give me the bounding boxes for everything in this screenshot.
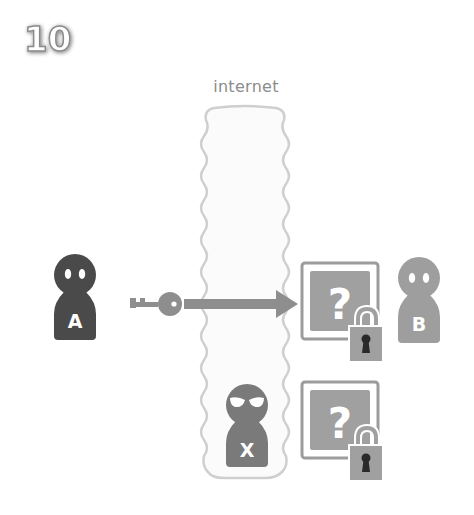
- person-a: A: [50, 252, 100, 342]
- person-a-label: A: [50, 310, 100, 332]
- internet-label: internet: [196, 77, 296, 96]
- locked-message-box-attacker: ?: [300, 380, 384, 482]
- step-number-graphic: 10: [22, 18, 82, 58]
- key-icon: [130, 292, 182, 316]
- step-number: 10: [22, 18, 82, 58]
- question-mark-icon: ?: [328, 399, 352, 448]
- person-b-label: B: [394, 313, 444, 335]
- arrow-icon: [184, 290, 298, 318]
- svg-text:10: 10: [24, 19, 71, 58]
- key-transfer-arrow: [128, 284, 300, 324]
- person-b: B: [394, 255, 444, 345]
- locked-message-box-receiver: ?: [300, 261, 384, 363]
- question-mark-icon: ?: [328, 280, 352, 329]
- attacker-x-label: X: [223, 439, 271, 461]
- attacker-x: X: [223, 383, 271, 469]
